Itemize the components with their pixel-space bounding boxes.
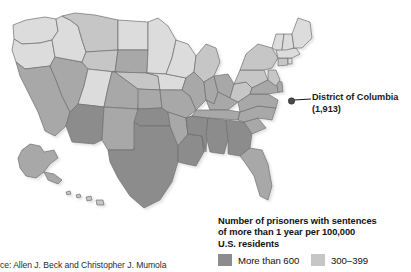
- legend-title-line-3: U.S. residents: [218, 239, 411, 250]
- map-legend: Number of prisoners with sentences of mo…: [218, 216, 411, 267]
- legend-rows: More than 600 300–399: [218, 253, 411, 267]
- states-group: [12, 13, 312, 208]
- dc-leader-line: [294, 99, 311, 100]
- dc-callout: District of Columbia (1,913): [312, 92, 410, 115]
- legend-swatch-light: [311, 254, 325, 266]
- state-AK: [18, 144, 58, 178]
- source-line: Source: Allen J. Beck and Christopher J.…: [0, 260, 166, 270]
- state-OK: [134, 108, 170, 126]
- state-WY: [82, 50, 118, 72]
- legend-title: Number of prisoners with sentences of mo…: [218, 216, 411, 250]
- state-AL: [206, 118, 228, 154]
- state-AZ: [66, 104, 104, 144]
- legend-entry-more-than-600: More than 600: [218, 254, 311, 266]
- legend-title-line-1: Number of prisoners with sentences: [218, 216, 411, 227]
- legend-label-more-than-600: More than 600: [238, 255, 299, 266]
- dc-callout-label: District of Columbia: [312, 92, 398, 102]
- state-ND: [118, 20, 148, 50]
- figure-root: District of Columbia (1,913) Number of p…: [0, 0, 411, 272]
- state-AK-tail: [44, 172, 62, 184]
- legend-entry-300-399: 300–399: [311, 254, 368, 266]
- state-RI: [288, 58, 292, 64]
- legend-swatch-dark: [218, 254, 232, 266]
- state-HI-3: [86, 196, 92, 201]
- legend-title-line-2: of more than 1 year per 100,000: [218, 227, 411, 238]
- state-ME: [292, 18, 312, 48]
- state-FL: [240, 148, 272, 200]
- state-HI-2: [76, 194, 81, 198]
- state-HI-1: [66, 191, 71, 195]
- state-CT: [278, 58, 288, 66]
- dc-callout-value: (1,913): [312, 104, 410, 116]
- state-HI-4: [96, 200, 104, 205]
- state-SD: [115, 50, 148, 73]
- state-NM: [102, 107, 138, 150]
- dc-marker-icon: [288, 98, 294, 104]
- legend-label-300-399: 300–399: [331, 255, 368, 266]
- state-KS: [138, 89, 162, 109]
- legend-row: More than 600 300–399: [218, 253, 411, 267]
